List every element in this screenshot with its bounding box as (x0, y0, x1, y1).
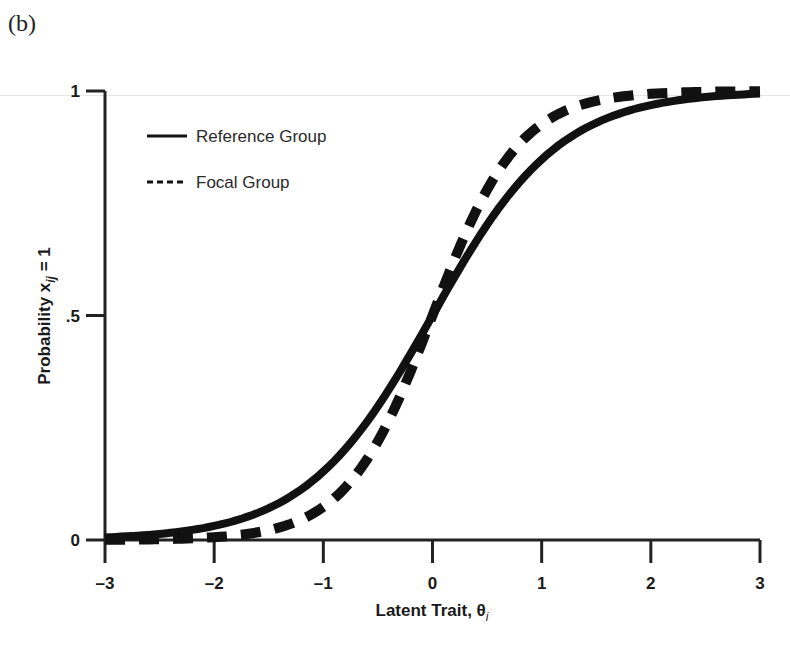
y-axis-ticks: 0.51 (66, 82, 105, 550)
focal-group-curve (105, 91, 760, 540)
x-tick-label: 2 (646, 574, 655, 593)
legend-item-reference: Reference Group (147, 127, 326, 146)
x-tick-label: –3 (96, 574, 115, 593)
x-tick-label: 0 (428, 574, 437, 593)
x-axis-title-subscript: i (486, 610, 489, 624)
legend-item-focal: Focal Group (147, 173, 290, 192)
y-tick-label: .5 (66, 307, 80, 326)
x-axis-title: Latent Trait, θi (376, 601, 489, 624)
legend: Reference Group Focal Group (147, 127, 326, 192)
irt-chart: 0.51 –3–2–10123 Reference Group Focal Gr… (0, 0, 790, 646)
legend-label-reference: Reference Group (196, 127, 326, 146)
curves (105, 91, 760, 540)
x-tick-label: –1 (314, 574, 333, 593)
x-tick-label: –2 (205, 574, 224, 593)
y-axis-title-text: Probability x (35, 282, 54, 385)
x-axis-ticks: –3–2–10123 (96, 540, 765, 593)
y-axis-title: Probability xij = 1 (35, 247, 58, 385)
y-axis-title-suffix: = 1 (35, 247, 54, 276)
y-tick-label: 0 (71, 531, 80, 550)
x-tick-label: 3 (755, 574, 764, 593)
y-tick-label: 1 (71, 82, 80, 101)
x-axis-title-text: Latent Trait, θ (376, 601, 486, 620)
legend-label-focal: Focal Group (196, 173, 290, 192)
x-tick-label: 1 (537, 574, 546, 593)
